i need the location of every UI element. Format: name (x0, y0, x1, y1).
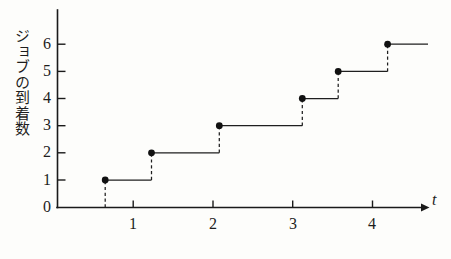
y-axis-title: ジョブの到着数 (7, 28, 29, 137)
figure-caption (0, 249, 451, 259)
x-tick-label-3: 3 (284, 216, 302, 232)
y-tick-label-2: 2 (35, 144, 51, 160)
x-axis-title: t (432, 192, 436, 208)
x-axis-arrowhead (421, 203, 430, 211)
x-tick-label-4: 4 (363, 216, 381, 232)
y-axis-ticks-group (58, 44, 66, 180)
jump-dot-6 (384, 41, 391, 48)
y-tick-label-6: 6 (35, 36, 51, 52)
x-axis-ticks-group (133, 201, 372, 208)
axes-group (57, 10, 430, 212)
jump-dot-3 (216, 122, 223, 129)
x-tick-label-1: 1 (124, 216, 142, 232)
jump-markers-group (102, 41, 391, 184)
y-tick-label-4: 4 (35, 90, 51, 106)
step-function-group (105, 44, 428, 207)
chart-figure: ジョブの到着数 6 5 4 3 2 1 0 1 2 3 4 t (0, 0, 451, 259)
y-tick-label-0: 0 (35, 199, 51, 215)
y-tick-label-3: 3 (35, 117, 51, 133)
chart-plot-area (0, 0, 451, 259)
jump-dot-4 (299, 95, 306, 102)
jump-dot-5 (335, 68, 342, 75)
jump-dot-2 (148, 149, 155, 156)
jump-dot-1 (102, 177, 109, 184)
y-tick-label-5: 5 (35, 63, 51, 79)
y-tick-label-1: 1 (35, 172, 51, 188)
x-tick-label-2: 2 (204, 216, 222, 232)
